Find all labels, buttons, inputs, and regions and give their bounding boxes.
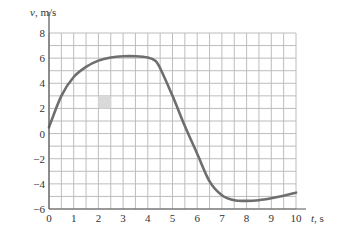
x-tick-labels: 012345678910 — [46, 212, 302, 224]
y-tick-label: −2 — [33, 153, 45, 165]
x-tick-label: 8 — [244, 212, 250, 224]
y-tick-label: −6 — [33, 203, 45, 215]
y-tick-label: 8 — [40, 27, 46, 39]
y-axis-label: v, m/s — [30, 6, 56, 18]
x-tick-label: 3 — [120, 212, 126, 224]
y-tick-label: 0 — [40, 128, 46, 140]
x-tick-label: 4 — [145, 212, 151, 224]
shaded-cell — [98, 96, 110, 109]
x-tick-label: 7 — [219, 212, 225, 224]
x-tick-label: 0 — [46, 212, 52, 224]
y-tick-label: −4 — [33, 178, 45, 190]
x-tick-label: 1 — [71, 212, 77, 224]
y-tick-label: 4 — [40, 77, 46, 89]
x-tick-label: 10 — [291, 212, 303, 224]
x-tick-label: 6 — [194, 212, 200, 224]
x-tick-label: 5 — [170, 212, 176, 224]
y-tick-labels: 86420−2−4−6 — [33, 27, 45, 215]
y-tick-label: 2 — [40, 102, 46, 114]
x-axis-label: t, s — [311, 212, 324, 224]
x-tick-label: 9 — [269, 212, 275, 224]
x-tick-label: 2 — [96, 212, 102, 224]
velocity-time-chart: 86420−2−4−6 012345678910 v, m/s t, s — [0, 0, 348, 235]
grid — [49, 33, 296, 209]
y-tick-label: 6 — [40, 52, 46, 64]
